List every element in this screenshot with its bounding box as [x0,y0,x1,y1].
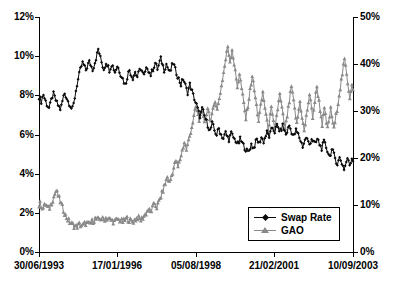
legend-label-gao: GAO [281,225,304,236]
plot-area [0,0,393,284]
gao-marker-icon [253,224,277,237]
swap-rate-marker-icon [253,211,277,224]
chart-container: 12% 10% 8% 6% 4% 2% 0% 50% 40% 30% 20% 1… [0,0,393,284]
chart-legend: Swap Rate GAO [248,207,340,241]
legend-item-swap-rate: Swap Rate [253,211,333,224]
legend-item-gao: GAO [253,224,333,237]
legend-label-swap-rate: Swap Rate [281,212,332,223]
